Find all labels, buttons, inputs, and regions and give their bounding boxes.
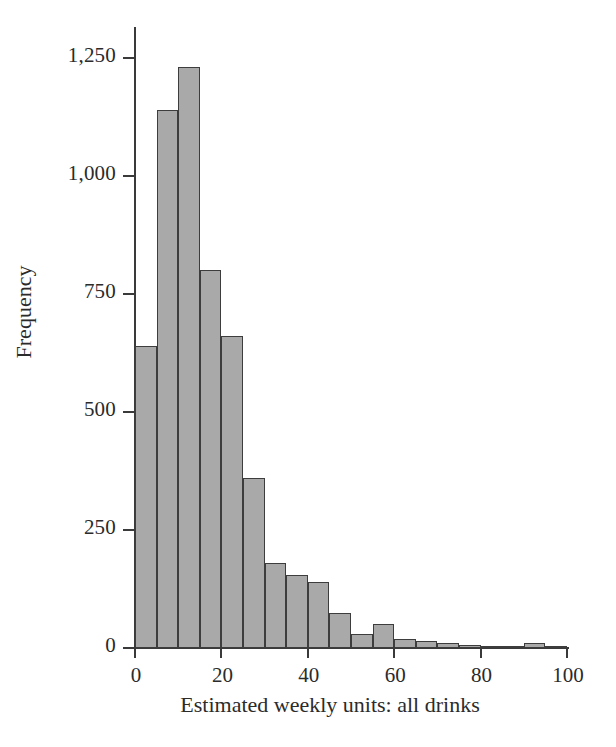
x-tick-mark xyxy=(220,647,222,658)
x-tick-mark xyxy=(307,647,309,658)
y-tick-label: 1,250 xyxy=(20,45,116,66)
histogram-bar xyxy=(243,478,265,648)
x-tick-label: 60 xyxy=(365,664,425,686)
y-tick-label: 500 xyxy=(20,399,116,420)
histogram-bar xyxy=(200,270,222,648)
histogram-bar xyxy=(459,645,481,648)
x-tick-label: 80 xyxy=(452,664,512,686)
x-tick-label: 40 xyxy=(279,664,339,686)
y-tick-mark xyxy=(123,529,134,531)
y-tick-group: 1,250 xyxy=(0,57,134,59)
histogram-bar xyxy=(135,346,157,648)
histogram-bar xyxy=(394,639,416,648)
histogram-bar xyxy=(524,643,546,648)
histogram-bar xyxy=(373,624,395,648)
x-tick-mark xyxy=(480,647,482,658)
y-tick-group: 0 xyxy=(0,647,134,649)
x-axis-title: Estimated weekly units: all drinks xyxy=(0,692,616,718)
y-tick-mark xyxy=(123,293,134,295)
histogram-bar xyxy=(545,646,567,648)
y-tick-label: 0 xyxy=(20,635,116,656)
plot-area: 02505007501,0001,250 020406080100 xyxy=(0,0,616,747)
y-tick-label: 1,000 xyxy=(20,163,116,184)
histogram-bar xyxy=(502,646,524,648)
x-tick-label: 100 xyxy=(538,664,598,686)
histogram-bar xyxy=(437,643,459,648)
y-tick-group: 250 xyxy=(0,529,134,531)
histogram-bar xyxy=(351,634,373,648)
histogram-bar xyxy=(157,110,179,648)
y-tick-label: 250 xyxy=(20,517,116,538)
histogram-bar xyxy=(178,67,200,648)
histogram-bar xyxy=(286,575,308,648)
histogram-bar xyxy=(416,641,438,648)
x-tick-mark xyxy=(566,647,568,658)
y-tick-group: 500 xyxy=(0,411,134,413)
x-tick-mark xyxy=(134,647,136,658)
histogram-figure: 02505007501,0001,250 020406080100 Estima… xyxy=(0,0,616,747)
histogram-bar xyxy=(265,563,287,648)
y-tick-mark xyxy=(123,57,134,59)
histogram-bar xyxy=(329,613,351,648)
histogram-bar xyxy=(221,336,243,648)
y-tick-group: 1,000 xyxy=(0,175,134,177)
x-tick-label: 20 xyxy=(192,664,252,686)
y-tick-mark xyxy=(123,647,134,649)
y-axis-title: Frequency xyxy=(12,242,36,382)
histogram-bar xyxy=(481,646,503,648)
x-tick-label: 0 xyxy=(106,664,166,686)
x-tick-mark xyxy=(393,647,395,658)
y-tick-mark xyxy=(123,175,134,177)
x-axis-title-text: Estimated weekly units: all drinks xyxy=(180,692,479,718)
y-tick-mark xyxy=(123,411,134,413)
histogram-bar xyxy=(308,582,330,648)
